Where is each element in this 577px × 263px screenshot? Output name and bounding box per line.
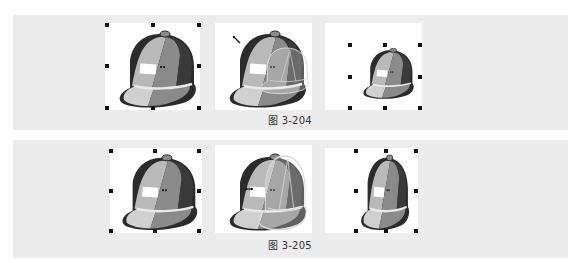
resize-handle[interactable] xyxy=(383,43,387,47)
figure-caption: 图 3-204 xyxy=(230,112,350,127)
resize-handle[interactable] xyxy=(151,23,155,27)
resize-handle[interactable] xyxy=(105,64,109,68)
resize-handle[interactable] xyxy=(197,229,201,233)
panel-original xyxy=(110,148,202,233)
resize-handle[interactable] xyxy=(414,189,418,193)
resize-handle[interactable] xyxy=(348,43,352,47)
resize-handle[interactable] xyxy=(414,229,418,233)
resize-handle[interactable] xyxy=(109,229,113,233)
resize-handle[interactable] xyxy=(153,149,157,153)
resize-handle[interactable] xyxy=(418,75,422,79)
resize-handle[interactable] xyxy=(348,106,352,110)
panel-scaling xyxy=(215,145,312,233)
resize-handle[interactable] xyxy=(414,149,418,153)
baseball-cap-icon xyxy=(215,23,312,110)
panel-scaling xyxy=(215,23,312,110)
resize-handle[interactable] xyxy=(151,106,155,110)
baseball-cap-icon xyxy=(325,23,422,110)
resize-handle[interactable] xyxy=(418,43,422,47)
resize-handle[interactable] xyxy=(354,189,358,193)
resize-handle[interactable] xyxy=(109,149,113,153)
baseball-cap-icon xyxy=(325,148,418,233)
baseball-cap-icon xyxy=(215,145,312,233)
resize-handle[interactable] xyxy=(384,149,388,153)
resize-handle[interactable] xyxy=(197,189,201,193)
baseball-cap-icon xyxy=(105,23,200,110)
resize-handle[interactable] xyxy=(348,75,352,79)
panel-original xyxy=(105,23,200,110)
resize-handle[interactable] xyxy=(197,106,201,110)
resize-handle[interactable] xyxy=(105,106,109,110)
panel-scaled-result xyxy=(325,23,422,110)
panel-narrowed-result xyxy=(325,148,418,233)
baseball-cap-icon xyxy=(110,148,202,233)
resize-handle[interactable] xyxy=(354,229,358,233)
resize-handle[interactable] xyxy=(197,23,201,27)
resize-handle[interactable] xyxy=(384,229,388,233)
resize-handle[interactable] xyxy=(105,23,109,27)
resize-handle[interactable] xyxy=(109,189,113,193)
figure-caption: 图 3-205 xyxy=(230,237,350,252)
resize-handle[interactable] xyxy=(197,64,201,68)
resize-handle[interactable] xyxy=(354,149,358,153)
resize-handle[interactable] xyxy=(197,149,201,153)
resize-handle[interactable] xyxy=(383,106,387,110)
resize-handle[interactable] xyxy=(418,106,422,110)
scale-cursor-icon xyxy=(233,36,240,43)
resize-handle[interactable] xyxy=(153,229,157,233)
